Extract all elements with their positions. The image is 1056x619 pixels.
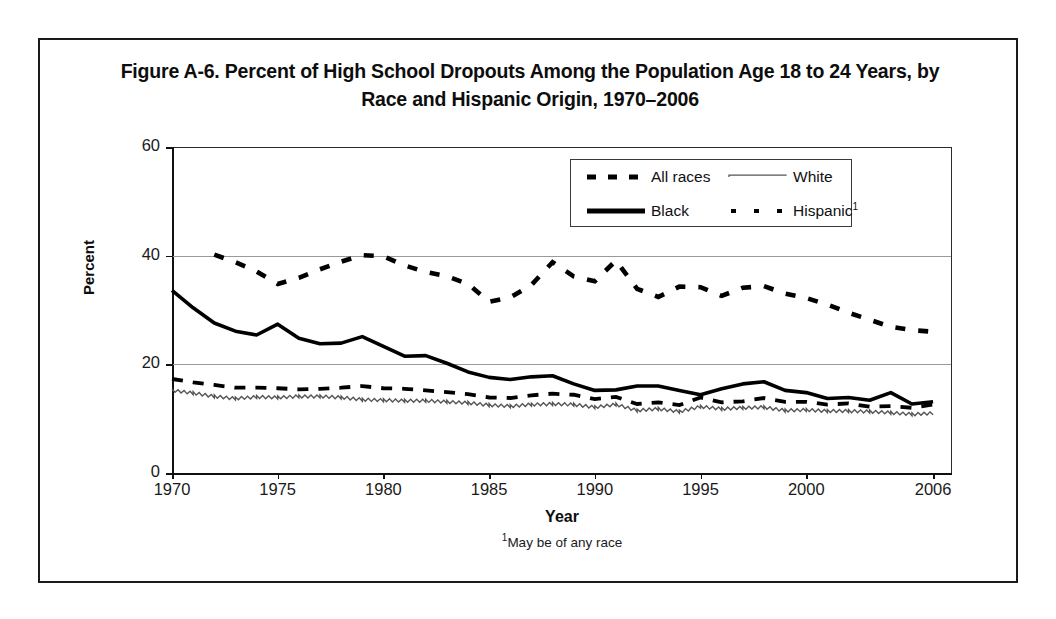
legend-swatch-all-races (585, 170, 647, 184)
legend-label-hispanic: Hispanic1 (793, 201, 858, 220)
legend-label-black: Black (651, 202, 689, 220)
legend-swatch-black (585, 204, 647, 218)
legend-label-all-races: All races (651, 168, 710, 186)
legend-entry-white[interactable]: White (727, 160, 833, 194)
legend-entry-all-races[interactable]: All races (585, 160, 710, 194)
legend-entry-black[interactable]: Black (585, 194, 689, 228)
legend-row: Black Hispanic1 (571, 194, 853, 228)
y-axis-title: Percent (80, 240, 97, 295)
x-axis-title: Year (172, 508, 952, 526)
legend-swatch-hispanic (727, 204, 789, 218)
figure-frame: Figure A-6. Percent of High School Dropo… (38, 38, 1018, 583)
legend-entry-hispanic[interactable]: Hispanic1 (727, 194, 858, 228)
legend-row: All races White (571, 160, 853, 194)
footnote-text: May be of any race (507, 535, 622, 550)
footnote: 1May be of any race (172, 532, 952, 550)
chart-series-layer (40, 40, 1020, 585)
chart-legend: All races White Black Hispanic1 (570, 159, 852, 227)
legend-label-white: White (793, 168, 833, 186)
series-hispanic (214, 255, 933, 332)
legend-swatch-white (727, 170, 789, 184)
